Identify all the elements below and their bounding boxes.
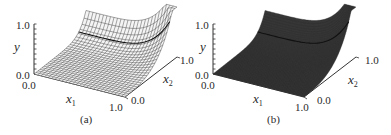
- y-tick-max: 1.0: [195, 20, 209, 31]
- x2-tick-max: 1.0: [365, 55, 379, 66]
- x2-sub: 2: [169, 79, 173, 88]
- x1-tick-max: 1.0: [295, 102, 309, 113]
- caption-a: (a): [80, 114, 92, 125]
- x2-tick-min: 0.0: [131, 95, 145, 106]
- x1-sub: 1: [72, 99, 76, 108]
- x1-axis-label: x1: [253, 93, 263, 109]
- x1-tick-min: 0.0: [201, 80, 215, 91]
- x1-axis-label: x1: [66, 93, 76, 109]
- panel-b: 1.0 y 0.0 0.0 x1 1.0 0.0 x2 1.0 (b): [187, 0, 382, 135]
- x1-sub: 1: [259, 99, 263, 108]
- x2-axis-label: x2: [163, 73, 173, 89]
- x2-tick-min: 0.0: [317, 95, 331, 106]
- x2-axis-label: x2: [348, 74, 358, 90]
- x1-tick-max: 1.0: [109, 102, 123, 113]
- caption-b: (b): [267, 114, 280, 125]
- y-axis-label: y: [14, 41, 20, 52]
- y-tick-max: 1.0: [16, 20, 30, 31]
- surface-plot-b: [187, 0, 391, 135]
- x1-tick-min: 0.0: [22, 80, 36, 91]
- x2-sub: 2: [354, 80, 358, 89]
- y-axis-label: y: [200, 41, 206, 52]
- panel-a: 1.0 y 0.0 0.0 x1 1.0 0.0 x2 1.0 (a): [0, 0, 195, 135]
